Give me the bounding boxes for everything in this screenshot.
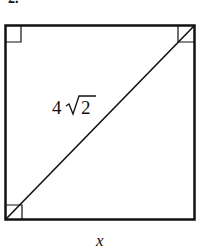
diagonal-label-radicand: 2 [81, 97, 91, 118]
side-label: x [95, 231, 104, 249]
diagonal-label-coefficient: 4 [52, 97, 62, 118]
right-angle-mark-top-left [6, 26, 21, 42]
problem-number: 2. [8, 0, 19, 6]
diagonal-line [6, 26, 194, 219]
diagonal-label: 4 2 [52, 96, 96, 118]
square-diagram: 2. 4 2 x [0, 0, 206, 249]
